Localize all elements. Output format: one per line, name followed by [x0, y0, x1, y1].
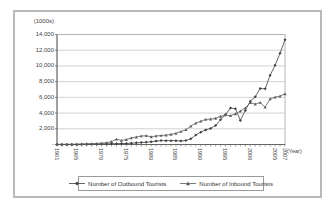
y-tick-label: -	[23, 141, 54, 147]
y-tick-label: 6,000	[23, 94, 54, 100]
diamond-marker	[145, 141, 148, 144]
x-tick-label: 1965	[73, 148, 79, 160]
legend-item: Number of Inbound Tourists	[180, 180, 273, 187]
y-axis-unit-label: (1000s)	[23, 18, 54, 24]
legend-item: Number of Outbound Tourists	[69, 180, 166, 187]
legend-diamond-marker-icon	[69, 180, 85, 187]
x-tick-label: 1975	[123, 148, 129, 160]
x-tick-label: 1970	[98, 148, 104, 160]
y-tick-label: 12,000	[23, 47, 54, 53]
diamond-marker	[184, 139, 187, 142]
y-tick-label: 10,000	[23, 62, 54, 68]
diamond-marker	[160, 139, 163, 142]
tourists-line-chart	[15, 12, 320, 196]
x-tick-label: 1961	[54, 148, 60, 160]
plot-border	[57, 35, 285, 145]
diamond-marker	[150, 140, 153, 143]
diamond-marker	[284, 38, 287, 41]
x-tick-label: 1980	[148, 148, 154, 160]
diamond-marker	[279, 52, 282, 55]
triangle-marker	[259, 101, 262, 104]
chart-frame: (1000s) -2,0004,0006,0008,00010,00012,00…	[13, 10, 322, 198]
diamond-marker	[165, 139, 168, 142]
chart-plot-container: (1000s) -2,0004,0006,0008,00010,00012,00…	[15, 12, 320, 196]
triangle-marker	[234, 112, 237, 115]
diamond-marker	[264, 87, 267, 90]
x-tick-label: 2000	[247, 148, 253, 160]
legend-triangle-marker-icon	[180, 180, 196, 187]
legend-label: Number of Inbound Tourists	[199, 181, 273, 187]
diamond-marker	[174, 139, 177, 142]
screenshot-root: { "chart_data": { "type": "line", "title…	[0, 0, 331, 209]
y-tick-label: 4,000	[23, 110, 54, 116]
diamond-marker	[244, 109, 247, 112]
diamond-marker	[234, 107, 237, 110]
y-tick-label: 2,000	[23, 125, 54, 131]
chart-legend: Number of Outbound TouristsNumber of Inb…	[78, 176, 264, 191]
diamond-marker	[269, 74, 272, 77]
x-tick-label: 1985	[172, 148, 178, 160]
x-axis-unit-label: (Year)	[287, 148, 302, 154]
diamond-marker	[135, 141, 138, 144]
x-tick-label: 1990	[197, 148, 203, 160]
triangle-marker	[284, 92, 287, 95]
diamond-marker	[140, 141, 143, 144]
diamond-marker	[239, 119, 242, 122]
y-tick-label: 8,000	[23, 78, 54, 84]
diamond-marker	[155, 140, 158, 143]
diamond-marker	[199, 131, 202, 134]
x-tick-label: 2005	[272, 148, 278, 160]
diamond-marker	[170, 139, 173, 142]
diamond-marker	[179, 139, 182, 142]
x-tick-label: 1995	[222, 148, 228, 160]
legend-label: Number of Outbound Tourists	[88, 181, 166, 187]
diamond-marker	[274, 64, 277, 67]
y-tick-label: 14,000	[23, 31, 54, 37]
